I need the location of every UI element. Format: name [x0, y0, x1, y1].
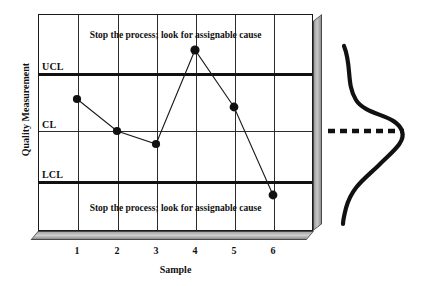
x-tick-6: 6: [261, 245, 285, 256]
control-chart-figure: UCL CL LCL Stop the process; look for as…: [0, 0, 425, 286]
gridline-sample-3: [157, 15, 158, 230]
cl-label: CL: [42, 119, 56, 130]
x-tick-2: 2: [105, 245, 129, 256]
normal-curve-icon: [343, 46, 403, 224]
gridline-sample-6: [274, 15, 275, 230]
cl-line: [39, 131, 312, 132]
gridline-sample-2: [118, 15, 119, 230]
lcl-line: [39, 181, 312, 184]
lcl-label: LCL: [42, 169, 63, 180]
x-tick-3: 3: [144, 245, 168, 256]
ucl-label: UCL: [42, 61, 64, 72]
x-axis-title: Sample: [38, 264, 313, 275]
x-tick-5: 5: [222, 245, 246, 256]
frame-shadow-bottom: [30, 231, 314, 240]
gridline-sample-1: [78, 15, 79, 230]
upper-zone-annotation: Stop the process; look for assignable ca…: [38, 30, 313, 40]
x-tick-1: 1: [65, 245, 89, 256]
y-axis-title: Quality Measurement: [20, 35, 31, 185]
gridline-sample-5: [235, 15, 236, 230]
gridline-sample-4: [196, 15, 197, 230]
lower-zone-annotation: Stop the process; look for assignable ca…: [38, 203, 313, 213]
ucl-line: [39, 73, 312, 76]
x-tick-4: 4: [183, 245, 207, 256]
distribution-curve-panel: [330, 40, 425, 230]
frame-shadow-right: [313, 14, 322, 231]
plot-area: [38, 14, 313, 231]
